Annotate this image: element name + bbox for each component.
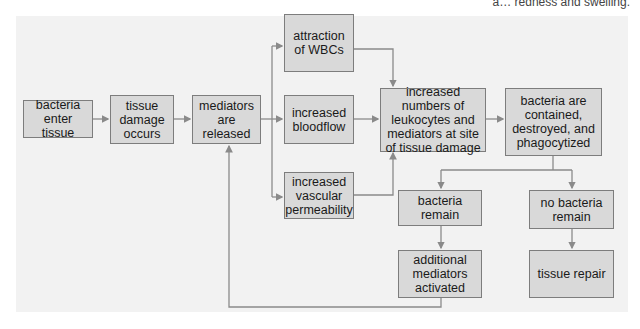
node-tissue-repair: tissue repair [529, 250, 614, 298]
node-no-bacteria-remain: no bacteria remain [529, 190, 614, 229]
node-increased-numbers-leukocytes: increased numbers of leukocytes and medi… [380, 88, 486, 152]
node-bacteria-remain: bacteria remain [398, 190, 482, 226]
node-bacteria-contained: bacteria are contained, destroyed, and p… [505, 88, 602, 156]
node-attraction-of-wbcs: attraction of WBCs [284, 14, 354, 72]
node-bacteria-enter-tissue: bacteria enter tissue [23, 100, 93, 138]
node-increased-bloodflow: increased bloodflow [284, 95, 354, 144]
node-additional-mediators-activated: additional mediators activated [398, 250, 482, 298]
node-mediators-released: mediators are released [192, 95, 261, 144]
node-increased-vascular-permeability: increased vascular permeability [284, 172, 354, 219]
node-tissue-damage-occurs: tissue damage occurs [110, 95, 174, 144]
